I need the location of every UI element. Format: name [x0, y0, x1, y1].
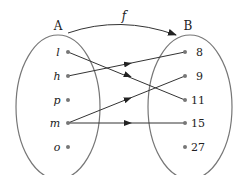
dot-h [66, 74, 70, 78]
arrowhead-h-to-8 [124, 64, 128, 65]
dot-l [66, 50, 70, 54]
diagram-canvas: A B f l h p m o 8 9 11 15 27 [0, 0, 241, 175]
dot-8 [183, 50, 187, 54]
dot-p [66, 98, 70, 102]
element-l: l [56, 46, 60, 59]
function-arrow [68, 24, 176, 35]
function-mapping-diagram: A B f l h p m o 8 9 11 15 27 [0, 0, 241, 175]
function-label: f [121, 9, 129, 23]
element-9: 9 [196, 70, 203, 83]
dot-9 [183, 74, 187, 78]
element-m: m [50, 117, 60, 130]
dot-15 [183, 121, 187, 125]
set-b-elements: 8 9 11 15 27 [183, 46, 205, 154]
element-h: h [53, 70, 60, 83]
element-p: p [53, 94, 60, 107]
element-o: o [54, 141, 61, 154]
mapping-l-to-11 [68, 52, 185, 100]
dot-m [66, 121, 70, 125]
set-a-elements: l h p m o [50, 46, 70, 154]
set-a-label: A [53, 19, 63, 33]
element-11: 11 [191, 94, 205, 107]
element-8: 8 [196, 46, 203, 59]
dot-27 [183, 145, 187, 149]
set-b-label: B [184, 19, 193, 33]
set-b-ellipse [148, 35, 232, 175]
element-27: 27 [191, 141, 205, 154]
dot-o [66, 145, 70, 149]
element-15: 15 [191, 117, 205, 130]
dot-11 [183, 98, 187, 102]
arrowhead-m-to-9 [124, 99, 128, 101]
